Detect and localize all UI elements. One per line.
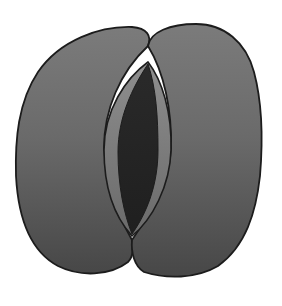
stoma-diagram xyxy=(0,0,282,306)
stoma-illustration xyxy=(0,0,282,306)
